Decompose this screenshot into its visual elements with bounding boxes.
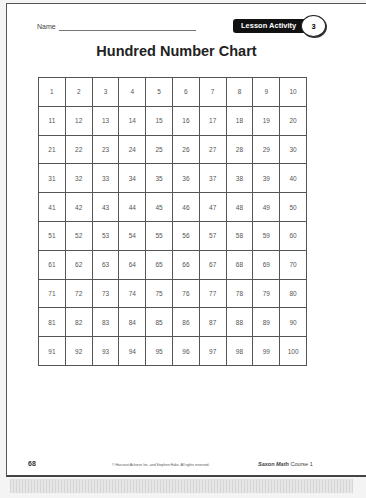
- grid-cell: 35: [146, 164, 173, 193]
- grid-cell: 38: [226, 164, 253, 193]
- grid-cell: 67: [199, 250, 226, 279]
- grid-cell: 1: [39, 78, 66, 107]
- course-label: Saxon Math Course 1: [258, 461, 313, 467]
- grid-cell: 73: [92, 279, 119, 308]
- grid-cell: 48: [226, 193, 253, 222]
- grid-cell: 98: [226, 337, 253, 366]
- grid-cell: 17: [199, 106, 226, 135]
- grid-row: 41424344454647484950: [39, 193, 307, 222]
- grid-cell: 26: [172, 135, 199, 164]
- grid-cell: 88: [226, 308, 253, 337]
- grid-cell: 83: [92, 308, 119, 337]
- grid-cell: 60: [280, 221, 307, 250]
- page-number: 68: [28, 460, 36, 467]
- grid-cell: 8: [226, 78, 253, 107]
- grid-cell: 66: [172, 250, 199, 279]
- grid-cell: 70: [280, 250, 307, 279]
- grid-cell: 25: [146, 135, 173, 164]
- grid-row: 11121314151617181920: [39, 106, 307, 135]
- grid-cell: 57: [199, 221, 226, 250]
- grid-row: 919293949596979899100: [39, 337, 307, 366]
- grid-cell: 3: [92, 78, 119, 107]
- grid-cell: 99: [253, 337, 280, 366]
- grid-cell: 56: [172, 221, 199, 250]
- grid-cell: 75: [146, 279, 173, 308]
- grid-cell: 52: [65, 221, 92, 250]
- grid-cell: 55: [146, 221, 173, 250]
- grid-cell: 95: [146, 337, 173, 366]
- grid-cell: 2: [65, 78, 92, 107]
- grid-cell: 93: [92, 337, 119, 366]
- grid-cell: 33: [92, 164, 119, 193]
- grid-cell: 18: [226, 106, 253, 135]
- grid-cell: 37: [199, 164, 226, 193]
- grid-cell: 10: [280, 78, 307, 107]
- grid-cell: 90: [280, 308, 307, 337]
- grid-cell: 9: [253, 78, 280, 107]
- grid-cell: 46: [172, 193, 199, 222]
- grid-cell: 61: [39, 250, 66, 279]
- grid-cell: 15: [146, 106, 173, 135]
- grid-row: 51525354555657585960: [39, 221, 307, 250]
- grid-cell: 94: [119, 337, 146, 366]
- grid-cell: 68: [226, 250, 253, 279]
- name-label: Name: [37, 23, 56, 30]
- brand-name: Saxon Math: [258, 461, 289, 467]
- grid-cell: 23: [92, 135, 119, 164]
- grid-row: 31323334353637383940: [39, 164, 307, 193]
- grid-cell: 34: [119, 164, 146, 193]
- grid-cell: 72: [65, 279, 92, 308]
- course-name: Course 1: [290, 461, 312, 467]
- grid-cell: 50: [280, 193, 307, 222]
- grid-cell: 16: [172, 106, 199, 135]
- grid-cell: 12: [65, 106, 92, 135]
- grid-cell: 65: [146, 250, 173, 279]
- grid-cell: 44: [119, 193, 146, 222]
- grid-row: 71727374757677787980: [39, 279, 307, 308]
- grid-cell: 51: [39, 221, 66, 250]
- grid-cell: 77: [199, 279, 226, 308]
- grid-cell: 22: [65, 135, 92, 164]
- grid-cell: 63: [92, 250, 119, 279]
- grid-row: 81828384858687888990: [39, 308, 307, 337]
- grid-cell: 39: [253, 164, 280, 193]
- grid-cell: 43: [92, 193, 119, 222]
- grid-cell: 6: [172, 78, 199, 107]
- grid-cell: 76: [172, 279, 199, 308]
- grid-cell: 71: [39, 279, 66, 308]
- grid-cell: 85: [146, 308, 173, 337]
- grid-cell: 53: [92, 221, 119, 250]
- grid-cell: 36: [172, 164, 199, 193]
- grid-row: 61626364656667686970: [39, 250, 307, 279]
- grid-cell: 14: [119, 106, 146, 135]
- copyright-notice: © Harcourt Achieve Inc. and Stephen Hake…: [112, 463, 210, 467]
- grid-cell: 86: [172, 308, 199, 337]
- grid-cell: 58: [226, 221, 253, 250]
- hundred-number-grid: 1234567891011121314151617181920212223242…: [38, 77, 307, 366]
- page-title: Hundred Number Chart: [0, 43, 353, 59]
- grid-cell: 29: [253, 135, 280, 164]
- grid-cell: 84: [119, 308, 146, 337]
- grid-cell: 45: [146, 193, 173, 222]
- grid-cell: 28: [226, 135, 253, 164]
- grid-cell: 80: [280, 279, 307, 308]
- grid-cell: 47: [199, 193, 226, 222]
- grid-cell: 13: [92, 106, 119, 135]
- grid-cell: 78: [226, 279, 253, 308]
- grid-cell: 54: [119, 221, 146, 250]
- grid-cell: 19: [253, 106, 280, 135]
- grid-row: 12345678910: [39, 78, 307, 107]
- grid-cell: 24: [119, 135, 146, 164]
- grid-cell: 97: [199, 337, 226, 366]
- grid-cell: 100: [280, 337, 307, 366]
- lesson-activity-number: 3: [301, 15, 326, 37]
- grid-cell: 49: [253, 193, 280, 222]
- grid-cell: 31: [39, 164, 66, 193]
- grid-cell: 87: [199, 308, 226, 337]
- name-field-line[interactable]: [59, 30, 196, 31]
- grid-cell: 20: [280, 106, 307, 135]
- grid-cell: 11: [39, 106, 66, 135]
- grid-cell: 4: [119, 78, 146, 107]
- grid-cell: 7: [199, 78, 226, 107]
- grid-cell: 82: [65, 308, 92, 337]
